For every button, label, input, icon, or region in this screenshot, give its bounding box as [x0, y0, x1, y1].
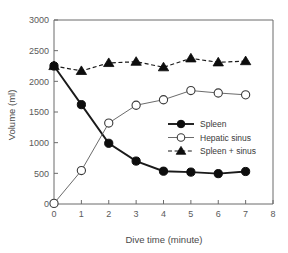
marker-filled-circle — [214, 170, 222, 178]
marker-open-circle — [77, 166, 85, 174]
y-tick-label: 500 — [34, 169, 49, 179]
line-chart: 050010001500200025003000 012345678 Splee… — [0, 0, 288, 253]
marker-open-circle — [177, 134, 185, 142]
series-markers-spleen-sinus — [49, 53, 251, 74]
x-tick-label: 3 — [134, 209, 139, 219]
marker-open-circle — [132, 101, 140, 109]
x-axis-title: Dive time (minute) — [125, 234, 202, 245]
legend-label: Spleen — [200, 119, 227, 129]
chart-legend: SpleenHepatic sinusSpleen + sinus — [168, 119, 256, 156]
chart-figure: 050010001500200025003000 012345678 Splee… — [0, 0, 288, 253]
marker-open-circle — [105, 119, 113, 127]
legend-label: Spleen + sinus — [200, 146, 256, 156]
x-tick-label: 6 — [216, 209, 221, 219]
marker-triangle — [240, 56, 250, 65]
marker-open-circle — [50, 199, 58, 207]
x-tick-label: 5 — [188, 209, 193, 219]
x-tick-label: 0 — [51, 209, 56, 219]
legend-label: Hepatic sinus — [200, 133, 251, 143]
y-axis-title: Volume (ml) — [6, 90, 17, 141]
marker-triangle — [131, 57, 141, 66]
y-tick-label: 2500 — [29, 46, 49, 56]
legend-item-hepatic-sinus: Hepatic sinus — [168, 133, 251, 143]
marker-open-circle — [242, 91, 250, 99]
x-tick-label: 4 — [161, 209, 166, 219]
legend-item-spleen-sinus: Spleen + sinus — [168, 146, 256, 156]
marker-filled-circle — [77, 101, 85, 109]
legend-item-spleen: Spleen — [168, 119, 227, 129]
data-series-layer — [49, 53, 251, 207]
marker-filled-circle — [132, 157, 140, 165]
marker-open-circle — [159, 96, 167, 104]
x-tick-label: 8 — [270, 209, 275, 219]
y-tick-label: 1000 — [29, 138, 49, 148]
y-tick-label: 0 — [44, 199, 49, 209]
marker-triangle — [176, 146, 186, 154]
x-axis-ticks: 012345678 — [51, 200, 275, 219]
marker-triangle — [76, 66, 86, 75]
marker-open-circle — [187, 86, 195, 94]
marker-filled-circle — [177, 120, 185, 128]
y-tick-label: 3000 — [29, 15, 49, 25]
y-tick-label: 2000 — [29, 77, 49, 87]
y-tick-label: 1500 — [29, 107, 49, 117]
x-tick-label: 1 — [79, 209, 84, 219]
marker-filled-circle — [187, 168, 195, 176]
x-tick-label: 2 — [106, 209, 111, 219]
marker-filled-circle — [242, 167, 250, 175]
x-tick-label: 7 — [243, 209, 248, 219]
marker-filled-circle — [105, 139, 113, 147]
marker-filled-circle — [159, 167, 167, 175]
marker-open-circle — [214, 89, 222, 97]
marker-triangle — [186, 53, 196, 62]
